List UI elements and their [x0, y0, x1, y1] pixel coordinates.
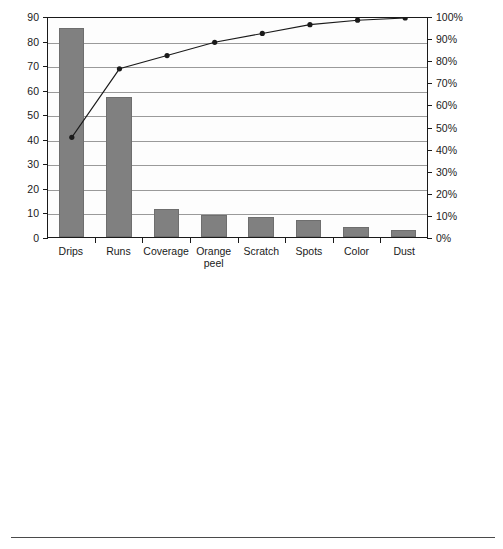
- y-axis-right-tick: [427, 194, 432, 195]
- y-axis-left-tick-label: 10: [0, 208, 39, 219]
- y-axis-left-tick: [43, 66, 48, 67]
- bar-slot: [380, 18, 427, 237]
- y-axis-right-tick-label: 20%: [436, 189, 457, 200]
- bar-coverage[interactable]: [154, 209, 180, 237]
- x-axis-category-label: Drips: [47, 245, 95, 269]
- y-axis-left-tick: [43, 238, 48, 239]
- defect-count-pareto-chart: 01020304050607080900%10%20%30%40%50%60%7…: [0, 0, 503, 272]
- y-axis-right-tick-label: 0%: [436, 233, 451, 244]
- y-axis-right-tick-label: 90%: [436, 34, 457, 45]
- y-axis-right-tick-label: 30%: [436, 167, 457, 178]
- x-axis-tick: [333, 238, 334, 243]
- x-axis-tick: [190, 238, 191, 243]
- bar-spots[interactable]: [296, 220, 322, 237]
- y-axis-left-tick-label: 70: [0, 61, 39, 72]
- bar-dust[interactable]: [391, 230, 417, 237]
- y-axis-left-tick-label: 60: [0, 86, 39, 97]
- footer-divider-rule: [11, 537, 495, 538]
- y-axis-left-tick: [43, 140, 48, 141]
- y-axis-left-tick: [43, 91, 48, 92]
- x-axis-tick: [142, 238, 143, 243]
- y-axis-left-tick: [43, 164, 48, 165]
- x-axis-category-label: Color: [333, 245, 381, 269]
- bar-drips[interactable]: [59, 28, 85, 237]
- y-axis-right-tick: [427, 172, 432, 173]
- y-axis-left-tick: [43, 213, 48, 214]
- bar-slot: [332, 18, 379, 237]
- x-axis-tick: [238, 238, 239, 243]
- y-axis-right-tick: [427, 216, 432, 217]
- y-axis-left-tick-label: 90: [0, 12, 39, 23]
- y-axis-right-tick-label: 40%: [436, 145, 457, 156]
- bar-series: [48, 18, 427, 237]
- bar-scratch[interactable]: [248, 217, 274, 237]
- x-axis-category-label: Runs: [95, 245, 143, 269]
- bar-runs[interactable]: [106, 97, 132, 237]
- y-axis-right-tick: [427, 105, 432, 106]
- bar-slot: [285, 18, 332, 237]
- bar-slot: [143, 18, 190, 237]
- bar-color[interactable]: [343, 227, 369, 237]
- y-axis-right-tick-label: 60%: [436, 100, 457, 111]
- bar-slot: [190, 18, 237, 237]
- plot-area: [47, 17, 428, 238]
- y-axis-left-tick-label: 50: [0, 110, 39, 121]
- y-axis-right-tick-label: 100%: [436, 12, 463, 23]
- x-axis-labels: DripsRunsCoverageOrange peelScratchSpots…: [47, 245, 428, 269]
- y-axis-left-tick-label: 30: [0, 159, 39, 170]
- x-axis-category-label: Spots: [285, 245, 333, 269]
- x-axis-tick: [380, 238, 381, 243]
- y-axis-left-tick-label: 0: [0, 233, 39, 244]
- bar-slot: [48, 18, 95, 237]
- y-axis-right-tick: [427, 83, 432, 84]
- y-axis-right-tick: [427, 61, 432, 62]
- bar-slot: [238, 18, 285, 237]
- y-axis-right-tick-label: 80%: [436, 56, 457, 67]
- y-axis-left-tick-label: 20: [0, 184, 39, 195]
- y-axis-right-tick-label: 10%: [436, 211, 457, 222]
- pareto-charts-figure: 01020304050607080900%10%20%30%40%50%60%7…: [0, 0, 503, 549]
- y-axis-left-tick: [43, 42, 48, 43]
- x-axis-category-label: Orange peel: [190, 245, 238, 269]
- y-axis-right-tick: [427, 128, 432, 129]
- y-axis-left-tick-label: 80: [0, 37, 39, 48]
- defect-cost-pareto-chart: $0$2,000$4,000$6,000$8,000$10,000$12,000…: [0, 275, 503, 525]
- y-axis-right-tick: [427, 39, 432, 40]
- y-axis-left-tick: [43, 17, 48, 18]
- y-axis-left-tick: [43, 115, 48, 116]
- bar-orange-peel[interactable]: [201, 215, 227, 237]
- x-axis-category-label: Coverage: [142, 245, 190, 269]
- x-axis-tick: [95, 238, 96, 243]
- y-axis-left-tick: [43, 189, 48, 190]
- y-axis-right-tick-label: 70%: [436, 78, 457, 89]
- y-axis-right-tick: [427, 150, 432, 151]
- y-axis-right-tick-label: 50%: [436, 123, 457, 134]
- bar-slot: [95, 18, 142, 237]
- y-axis-left-tick-label: 40: [0, 135, 39, 146]
- x-axis-tick: [285, 238, 286, 243]
- x-axis-category-label: Dust: [380, 245, 428, 269]
- y-axis-right-tick: [427, 17, 432, 18]
- y-axis-right-tick: [427, 238, 432, 239]
- x-axis-category-label: Scratch: [238, 245, 286, 269]
